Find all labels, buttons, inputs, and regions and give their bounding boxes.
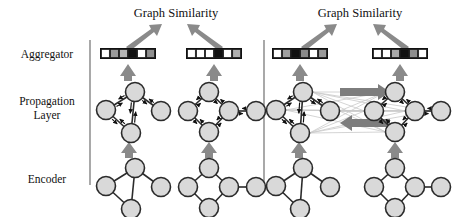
row-label-aggregator: Aggregator <box>21 48 74 61</box>
embedding-cell <box>215 49 223 57</box>
graph-node <box>386 123 405 142</box>
graph-node <box>247 178 266 197</box>
title-graph-similarity-right: Graph Similarity <box>318 6 403 20</box>
embedding-vector-3 <box>272 48 328 59</box>
embedding-vector-1 <box>100 48 156 59</box>
graph-node <box>122 124 141 143</box>
embedding-cell <box>410 49 418 57</box>
embedding-cell <box>273 49 281 57</box>
embedding-cell <box>196 49 204 57</box>
graph-node <box>152 178 171 197</box>
graph-node <box>386 199 405 218</box>
embedding-cell <box>101 49 109 57</box>
graph-node <box>179 102 198 121</box>
graph-node <box>97 177 116 196</box>
embedding-cell <box>282 49 290 57</box>
embedding-cell <box>138 49 146 57</box>
embedding-cell <box>419 49 427 57</box>
embedding-vector-2 <box>186 48 242 59</box>
graph-node <box>432 178 451 197</box>
figure-root: Aggregator Propagation Layer Encoder Gra… <box>0 0 459 217</box>
row-label-propagation-line2: Layer <box>34 109 61 122</box>
graph-node <box>294 159 313 178</box>
row-label-aggregator-text: Aggregator <box>21 48 74 61</box>
embedding-cell <box>292 49 300 57</box>
message-passing-arrow <box>303 112 304 123</box>
graph-node <box>321 178 340 197</box>
graph-node <box>406 178 425 197</box>
embedding-cell <box>233 49 241 57</box>
row-label-propagation-line1: Propagation <box>19 95 75 108</box>
graph-node <box>152 102 171 121</box>
embedding-cell <box>301 49 309 57</box>
graph-node <box>365 178 384 197</box>
graph-node <box>432 102 451 121</box>
row-label-encoder-text: Encoder <box>28 173 66 185</box>
graph-node <box>365 102 384 121</box>
title-graph-similarity-left: Graph Similarity <box>134 6 219 20</box>
embedding-cell <box>147 49 155 57</box>
architecture-diagram: Aggregator Propagation Layer Encoder Gra… <box>0 0 459 217</box>
graph-node <box>126 159 145 178</box>
row-label-encoder: Encoder <box>28 173 66 185</box>
message-passing-arrow <box>299 102 300 113</box>
graph-node <box>321 102 340 121</box>
graph-node <box>220 178 239 197</box>
graph-node <box>126 83 145 102</box>
embedding-cell <box>392 49 400 57</box>
graph-node <box>247 102 266 121</box>
graph-node <box>386 159 405 178</box>
embedding-cell <box>401 49 409 57</box>
embedding-cell <box>110 49 118 57</box>
graph-node <box>291 200 310 218</box>
embedding-cell <box>319 49 327 57</box>
graph-node <box>200 83 219 102</box>
graph-node <box>267 177 286 196</box>
graph-node <box>294 83 313 102</box>
graph-node <box>386 83 405 102</box>
graph-node <box>122 200 141 218</box>
embedding-cell <box>206 49 214 57</box>
embedding-cell <box>224 49 232 57</box>
graph-node <box>406 102 425 121</box>
graph-node <box>267 101 286 120</box>
graph-node <box>200 123 219 142</box>
graph-node <box>291 124 310 143</box>
graph-node <box>220 102 239 121</box>
embedding-cell <box>187 49 195 57</box>
graph-node <box>200 199 219 218</box>
graph-node <box>179 178 198 197</box>
embedding-vector-4 <box>372 48 428 59</box>
embedding-cell <box>373 49 381 57</box>
embedding-cell <box>382 49 390 57</box>
graph-node <box>97 101 116 120</box>
embedding-cell <box>129 49 137 57</box>
graph-node <box>200 159 219 178</box>
embedding-cell <box>310 49 318 57</box>
embedding-cell <box>120 49 128 57</box>
